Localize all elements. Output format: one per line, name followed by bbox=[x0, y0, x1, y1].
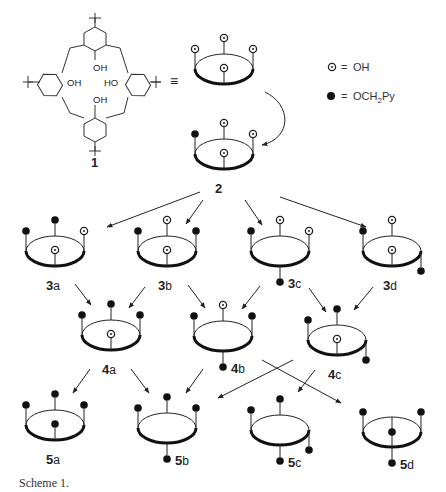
ocH2py-group-icon bbox=[276, 278, 284, 286]
ocH2py-group-icon bbox=[305, 446, 313, 454]
ocH2py-group-icon bbox=[362, 356, 370, 364]
compound-label: 5b bbox=[175, 453, 189, 468]
ocH2py-group-icon bbox=[219, 363, 227, 371]
ocH2py-group-icon bbox=[304, 316, 312, 324]
scheme-caption: Scheme 1. bbox=[19, 476, 69, 491]
molecule-5a: 5a bbox=[22, 390, 88, 467]
compound-label: 5c bbox=[288, 455, 301, 470]
reaction-arrow bbox=[188, 285, 205, 308]
reaction-arrow bbox=[129, 287, 145, 308]
compound-label: 4b bbox=[231, 361, 245, 376]
oh-group-icon bbox=[51, 246, 58, 253]
molecule-4b: 4b bbox=[190, 301, 256, 376]
legend-py-label: OCH2Py bbox=[353, 90, 395, 105]
ocH2py-group-icon bbox=[388, 459, 396, 467]
molecule-4a: 4a bbox=[78, 300, 144, 377]
oh-label: OH bbox=[93, 62, 107, 73]
ocH2py-group-icon bbox=[417, 267, 425, 275]
ocH2py-group-icon bbox=[417, 408, 425, 416]
oh-group-icon bbox=[80, 227, 87, 234]
oh-label: OH bbox=[67, 77, 81, 88]
ocH2py-group-icon bbox=[51, 390, 59, 398]
ocH2py-group-icon bbox=[192, 227, 200, 235]
ocH2py-group-icon bbox=[78, 311, 86, 319]
compound-label: 2 bbox=[215, 181, 222, 196]
oh-symbol-icon bbox=[328, 63, 335, 70]
reaction-arrow bbox=[280, 197, 366, 227]
reaction-arrow bbox=[107, 192, 200, 227]
ocH2py-group-icon bbox=[333, 305, 341, 313]
ocH2py-group-icon bbox=[191, 130, 199, 138]
reaction-arrow bbox=[131, 369, 149, 393]
oh-group-icon bbox=[163, 246, 170, 253]
curved-arrow bbox=[262, 92, 285, 145]
oh-group-icon bbox=[249, 130, 256, 137]
equivalent-symbol: ≡ bbox=[170, 73, 178, 89]
legend: = OH = OCH2Py bbox=[327, 61, 395, 105]
reaction-arrow bbox=[73, 369, 90, 393]
legend-equals: = bbox=[341, 61, 347, 73]
molecule-3a: 3a bbox=[22, 216, 87, 293]
ocH2py-group-icon bbox=[190, 312, 198, 320]
ocH2py-group-icon bbox=[134, 404, 142, 412]
compound-label: 3c bbox=[288, 276, 301, 291]
oh-label: HO bbox=[104, 77, 118, 88]
ocH2py-group-icon bbox=[51, 216, 59, 224]
oh-label: OH bbox=[93, 94, 107, 105]
compound-label: 3a bbox=[46, 278, 60, 293]
ocH2py-group-icon bbox=[248, 312, 256, 320]
ocH2py-group-icon bbox=[359, 408, 367, 416]
oh-group-icon bbox=[333, 335, 340, 342]
oh-group-icon bbox=[191, 45, 198, 52]
molecule-2: 2 bbox=[191, 119, 256, 196]
reaction-arrow bbox=[245, 200, 262, 225]
ocH2py-group-icon bbox=[80, 401, 88, 409]
ocH2py-group-icon bbox=[51, 420, 59, 428]
reaction-arrow bbox=[186, 200, 203, 224]
ocH2py-group-icon bbox=[107, 300, 115, 308]
molecule-3b: 3b bbox=[134, 216, 200, 293]
reaction-arrow bbox=[186, 369, 203, 393]
ocH2py-group-icon bbox=[388, 428, 396, 436]
ocH2py-group-icon bbox=[276, 457, 284, 465]
ocH2py-group-icon bbox=[247, 227, 255, 235]
legend-equals: = bbox=[341, 90, 347, 102]
py-symbol-icon bbox=[327, 92, 335, 100]
reaction-arrow bbox=[218, 360, 293, 398]
ocH2py-group-icon bbox=[359, 227, 367, 235]
oh-group-icon bbox=[107, 330, 114, 337]
oh-group-icon bbox=[249, 45, 256, 52]
compound-label: 3d bbox=[383, 278, 397, 293]
oh-group-icon bbox=[276, 216, 283, 223]
ocH2py-group-icon bbox=[192, 404, 200, 412]
compound-label: 5a bbox=[46, 452, 60, 467]
legend-oh-label: OH bbox=[353, 61, 370, 73]
reaction-arrow bbox=[354, 287, 373, 310]
compound-label-1: 1 bbox=[91, 155, 98, 170]
oh-group-icon bbox=[163, 216, 170, 223]
oh-group-icon bbox=[220, 119, 227, 126]
calixarene-structure-1: OH OH HO OH 1 ≡ bbox=[23, 13, 178, 170]
reaction-arrow bbox=[75, 284, 91, 305]
ocH2py-group-icon bbox=[163, 393, 171, 401]
molecule-5b: 5b bbox=[134, 393, 200, 468]
oh-group-icon bbox=[388, 246, 395, 253]
compound-label: 4c bbox=[328, 367, 341, 382]
ocH2py-group-icon bbox=[163, 455, 171, 463]
molecule-5c: 5c bbox=[247, 395, 313, 470]
reaction-scheme: OH OH HO OH 1 ≡ 23a3b3c3d4a4b4c5a5b5c5d … bbox=[0, 0, 446, 492]
compound-label: 3b bbox=[158, 278, 172, 293]
ocH2py-group-icon bbox=[247, 406, 255, 414]
ocH2py-group-icon bbox=[134, 227, 142, 235]
ocH2py-group-icon bbox=[22, 401, 30, 409]
reaction-arrow bbox=[309, 288, 326, 312]
compound-label: 5d bbox=[400, 457, 414, 472]
compound-label: 4a bbox=[102, 362, 116, 377]
oh-group-icon bbox=[220, 34, 227, 41]
ocH2py-group-icon bbox=[22, 227, 30, 235]
ocH2py-group-icon bbox=[136, 311, 144, 319]
molecule-1-cone bbox=[191, 34, 256, 84]
oh-group-icon bbox=[388, 216, 395, 223]
oh-group-icon bbox=[220, 149, 227, 156]
oh-group-icon bbox=[305, 227, 312, 234]
